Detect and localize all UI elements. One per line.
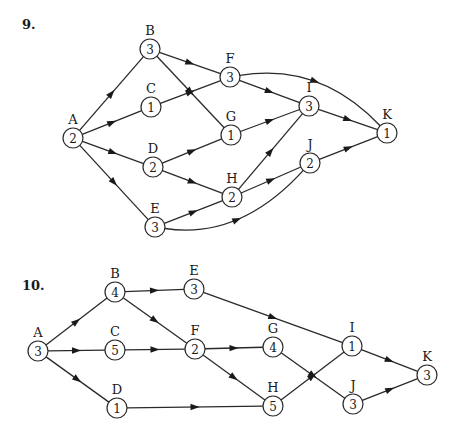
arrowhead-icon xyxy=(150,287,159,293)
node-duration: 3 xyxy=(423,369,431,383)
node-D: 2D xyxy=(143,141,163,177)
arrowhead-icon xyxy=(268,313,278,319)
node-duration: 1 xyxy=(383,127,391,141)
arrowhead-icon xyxy=(188,210,198,216)
arrowhead-icon xyxy=(72,374,81,382)
nodes: 2A3B1C2D3E3F1G2H3I2J1K xyxy=(63,23,397,237)
arrowhead-icon xyxy=(187,149,197,155)
node-label: A xyxy=(67,112,78,127)
node-F: 2F xyxy=(185,323,205,359)
node-label: F xyxy=(190,323,199,338)
arrowhead-icon xyxy=(108,148,118,154)
arrowhead-icon xyxy=(266,178,276,185)
arrowhead-icon xyxy=(185,58,195,64)
node-duration: 2 xyxy=(69,132,77,146)
arrowhead-icon xyxy=(232,218,242,224)
node-label: K xyxy=(382,107,392,122)
node-J: 3J xyxy=(343,378,363,414)
arrowhead-icon xyxy=(229,345,238,351)
node-label: D xyxy=(112,382,122,397)
arrowhead-icon xyxy=(107,121,117,127)
arrowhead-icon xyxy=(343,146,353,152)
arrowhead-icon xyxy=(150,346,159,352)
node-duration: 3 xyxy=(305,100,313,114)
node-H: 5H xyxy=(263,380,283,416)
arrowhead-icon xyxy=(72,347,81,353)
node-label: E xyxy=(189,263,199,278)
node-duration: 1 xyxy=(348,340,356,354)
node-G: 4G xyxy=(263,321,283,357)
node-label: G xyxy=(226,109,236,124)
node-duration: 3 xyxy=(226,71,234,85)
node-label: F xyxy=(225,51,234,66)
activity-network-10: 3A4B5C1D3E2F4G5H1I3J3K xyxy=(28,263,437,418)
node-D: 1D xyxy=(107,382,127,418)
node-duration: 1 xyxy=(147,101,155,115)
node-duration: 5 xyxy=(111,344,119,358)
node-label: I xyxy=(349,320,354,335)
node-duration: 2 xyxy=(228,191,236,205)
node-duration: 3 xyxy=(349,398,357,412)
node-label: J xyxy=(305,137,312,152)
node-duration: 3 xyxy=(146,43,154,57)
node-label: B xyxy=(110,266,120,281)
node-label: I xyxy=(306,80,311,95)
node-duration: 3 xyxy=(190,283,198,297)
node-duration: 2 xyxy=(149,161,157,175)
node-label: H xyxy=(267,380,278,395)
node-F: 3F xyxy=(220,51,240,87)
node-I: 3I xyxy=(299,80,319,116)
node-label: B xyxy=(145,23,155,38)
arrowhead-icon xyxy=(228,372,237,380)
activity-network-9: 2A3B1C2D3E3F1G2H3I2J1K xyxy=(63,23,397,237)
network-diagrams-canvas: 2A3B1C2D3E3F1G2H3I2J1K 3A4B5C1D3E2F4G5H1… xyxy=(0,0,461,435)
arrowhead-icon xyxy=(384,356,394,362)
node-duration: 4 xyxy=(111,286,119,300)
node-label: K xyxy=(422,349,432,364)
node-E: 3E xyxy=(184,263,204,299)
node-I: 1I xyxy=(342,320,362,356)
arrowhead-icon xyxy=(71,319,80,327)
node-duration: 5 xyxy=(269,400,277,414)
arrowhead-icon xyxy=(343,115,353,121)
node-label: D xyxy=(148,141,158,156)
node-C: 5C xyxy=(105,324,125,360)
arrowhead-icon xyxy=(265,119,275,125)
arrowhead-icon xyxy=(149,315,158,323)
node-duration: 1 xyxy=(113,402,121,416)
node-K: 3K xyxy=(417,349,437,385)
arrowhead-icon xyxy=(190,404,199,410)
node-label: C xyxy=(146,81,156,96)
node-J: 2J xyxy=(300,137,320,173)
node-label: G xyxy=(268,321,278,336)
node-label: A xyxy=(32,325,43,340)
arrowhead-icon xyxy=(187,177,197,183)
node-label: E xyxy=(150,201,160,216)
node-C: 1C xyxy=(141,81,161,117)
node-label: J xyxy=(348,378,355,393)
node-duration: 2 xyxy=(306,157,314,171)
node-duration: 1 xyxy=(227,129,235,143)
node-label: C xyxy=(110,324,120,339)
node-duration: 4 xyxy=(269,341,277,355)
node-B: 3B xyxy=(140,23,160,59)
node-label: H xyxy=(226,171,237,186)
node-B: 4B xyxy=(105,266,125,302)
arrowhead-icon xyxy=(385,388,395,394)
node-duration: 2 xyxy=(191,343,199,357)
arrowhead-icon xyxy=(264,87,274,93)
node-duration: 3 xyxy=(151,221,159,235)
node-A: 3A xyxy=(28,325,48,361)
node-duration: 3 xyxy=(34,345,42,359)
